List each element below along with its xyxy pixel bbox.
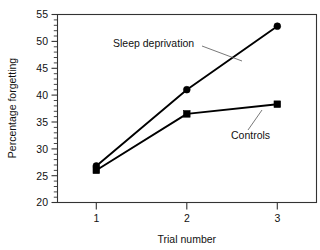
annotation-controls: Controls (231, 129, 270, 141)
y-tick-label-20: 20 (36, 196, 48, 208)
y-tick-label-50: 50 (36, 35, 48, 47)
y-tick-label-55: 55 (36, 8, 48, 20)
x-tick-label-2: 2 (184, 212, 190, 224)
data-point-sleep-deprivation-2 (183, 86, 190, 93)
y-tick-label-25: 25 (36, 170, 48, 182)
y-tick-label-35: 35 (36, 116, 48, 128)
annotation-sleep-deprivation: Sleep deprivation (113, 37, 194, 49)
data-point-sleep-deprivation-3 (274, 23, 281, 30)
y-tick-label-40: 40 (36, 89, 48, 101)
chart-container: 55 50 45 40 35 30 25 20 1 2 3 Trial numb… (0, 0, 320, 250)
data-point-sleep-deprivation-1 (93, 163, 100, 170)
data-point-controls-3 (274, 101, 281, 108)
x-tick-label-1: 1 (93, 212, 99, 224)
y-tick-label-45: 45 (36, 62, 48, 74)
forgetting-line-chart: 55 50 45 40 35 30 25 20 1 2 3 Trial numb… (0, 0, 320, 250)
x-tick-label-3: 3 (274, 212, 280, 224)
y-tick-label-30: 30 (36, 143, 48, 155)
y-axis-title: Percentage forgetting (6, 58, 18, 159)
data-point-controls-2 (184, 111, 191, 118)
x-axis-title: Trial number (158, 233, 217, 245)
